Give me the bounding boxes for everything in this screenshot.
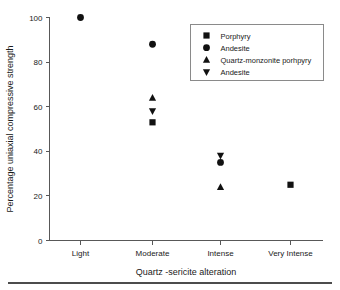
y-tick-label: 60 <box>34 103 43 112</box>
data-point-1-2 <box>217 159 224 166</box>
data-point-0-1 <box>287 182 293 188</box>
x-tick-label: Very Intense <box>268 249 313 258</box>
footer-divider <box>8 282 332 284</box>
y-tick-label: 0 <box>38 237 43 246</box>
scatter-plot: 020406080100LightModerateIntenseVery Int… <box>0 0 340 290</box>
x-tick-label: Moderate <box>136 249 170 258</box>
y-tick-label: 40 <box>34 147 43 156</box>
legend-marker-0 <box>203 32 209 38</box>
data-point-0-0 <box>149 119 155 125</box>
y-tick-label: 100 <box>29 14 43 23</box>
x-axis-title: Quartz -sericite alteration <box>136 267 237 277</box>
legend-marker-1 <box>203 44 210 51</box>
data-point-2-1 <box>217 183 224 190</box>
x-tick-label: Intense <box>207 249 234 258</box>
data-point-1-1 <box>149 41 156 48</box>
legend-label-2: Quartz-monzonite porhpyry <box>221 56 312 65</box>
legend-box <box>191 25 324 81</box>
y-tick-label: 20 <box>34 192 43 201</box>
x-tick-label: Light <box>72 249 90 258</box>
y-axis-title: Percentage uniaxial compressive strength <box>5 45 15 212</box>
data-point-2-0 <box>149 94 156 101</box>
y-tick-label: 80 <box>34 58 43 67</box>
data-point-1-0 <box>77 14 84 21</box>
data-point-3-1 <box>217 153 224 160</box>
legend-label-1: Andesite <box>221 44 250 53</box>
legend-label-3: Andesite <box>221 68 250 77</box>
figure-container: 020406080100LightModerateIntenseVery Int… <box>0 0 340 290</box>
legend-label-0: Porphyry <box>221 32 251 41</box>
data-point-3-0 <box>149 108 156 115</box>
